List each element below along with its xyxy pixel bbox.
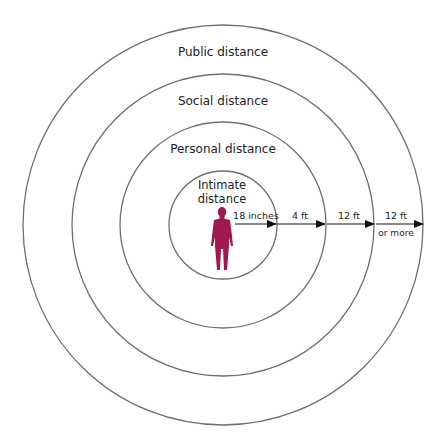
arrow-label-12-ft-public: 12 ft (385, 210, 407, 221)
public-distance-label: Public distance (178, 45, 268, 59)
personal-distance-label: Personal distance (170, 142, 276, 156)
intimate-distance-label-line2: distance (198, 192, 247, 206)
intimate-distance-label-line1: Intimate (198, 178, 246, 192)
social-distance-label: Social distance (178, 94, 268, 108)
arrow-label-12-ft-social: 12 ft (338, 210, 360, 221)
human-figure-icon (211, 207, 233, 270)
arrow-label-18-inches: 18 inches (233, 210, 279, 221)
proxemics-diagram: Public distance Social distance Personal… (0, 0, 443, 440)
arrow-sublabel-or-more: or more (378, 228, 414, 238)
arrow-label-4-ft: 4 ft (292, 210, 308, 221)
